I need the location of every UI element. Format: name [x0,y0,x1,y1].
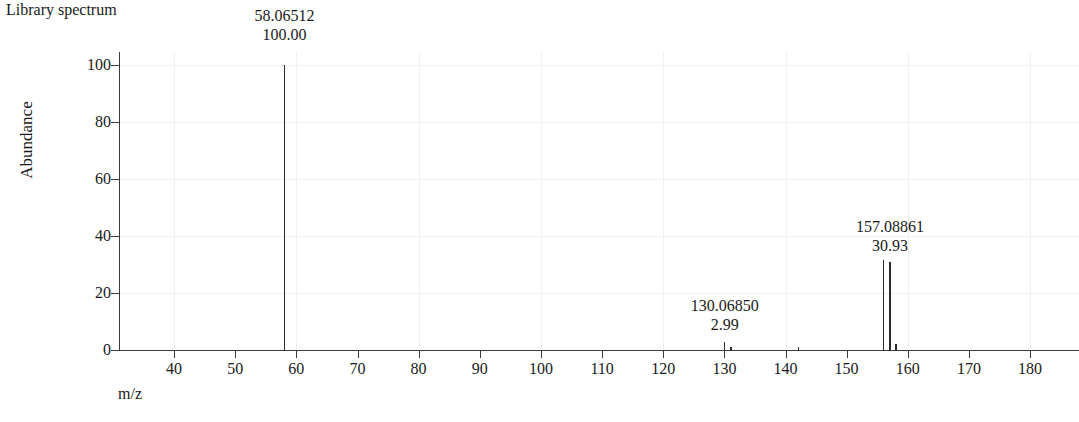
x-axis-tick-label: 130 [694,360,754,378]
x-axis-tick [358,351,359,358]
y-axis-tick-label: 100 [35,57,111,73]
x-axis-tick [480,351,481,358]
peak-mz-label: 130.06850 [645,296,805,315]
x-axis-tick [724,351,725,358]
x-axis-tick [541,351,542,358]
peak-annotation: 130.068502.99 [645,296,805,334]
y-axis-tick-label: 0 [35,342,111,358]
x-axis-tick-label: 180 [1000,360,1060,378]
peak-abundance-label: 2.99 [645,315,805,334]
peak-abundance-label: 30.93 [810,236,970,255]
x-axis-tick-label: 160 [878,360,938,378]
x-axis-tick [602,351,603,358]
y-axis-tick [111,236,120,237]
x-axis-tick-label: 120 [633,360,693,378]
y-axis-line [119,52,120,351]
grid-line-vertical [296,52,297,350]
peak-line [895,344,896,350]
peak-mz-label: 157.08861 [810,217,970,236]
grid-line-horizontal [120,122,1079,123]
y-axis-tick-label: 60 [35,171,111,187]
x-axis-line [119,350,1079,351]
grid-line-vertical [541,52,542,350]
peak-line [730,347,731,350]
peak-line [798,347,799,350]
x-axis-tick [419,351,420,358]
grid-line-vertical [1030,52,1031,350]
x-axis-tick-label: 100 [511,360,571,378]
x-axis-tick-label: 170 [939,360,999,378]
x-axis-label: m/z [118,385,142,403]
x-axis-tick-label: 80 [389,360,449,378]
x-axis-tick-label: 110 [572,360,632,378]
x-axis-tick-label: 70 [328,360,388,378]
peak-annotation: 157.0886130.93 [810,217,970,255]
y-axis-tick [111,65,120,66]
x-axis-tick [235,351,236,358]
x-axis-tick-label: 150 [817,360,877,378]
x-axis-tick [847,351,848,358]
x-axis-tick-label: 50 [205,360,265,378]
x-axis-tick [908,351,909,358]
x-axis-tick-label: 90 [450,360,510,378]
peak-line [883,260,884,350]
grid-line-horizontal [120,179,1079,180]
x-axis-tick [296,351,297,358]
y-axis-tick [111,122,120,123]
y-axis-label: Abundance [17,80,37,200]
grid-line-vertical [908,52,909,350]
page-title: Library spectrum [6,1,117,19]
x-axis-tick [969,351,970,358]
x-axis-tick-label: 40 [144,360,204,378]
peak-mz-label: 58.06512 [205,6,365,25]
spectrum-figure: Library spectrum Abundance m/z 020406080… [0,0,1079,422]
x-axis-tick [1030,351,1031,358]
y-axis-tick [111,350,120,351]
grid-line-vertical [419,52,420,350]
peak-line [889,262,890,350]
peak-line [284,65,285,350]
grid-line-horizontal [120,65,1079,66]
x-axis-tick-label: 140 [756,360,816,378]
y-axis-tick [111,179,120,180]
x-axis-tick [174,351,175,358]
x-axis-tick [663,351,664,358]
y-axis-tick-label: 80 [35,114,111,130]
grid-line-vertical [174,52,175,350]
x-axis-tick [786,351,787,358]
y-axis-tick [111,293,120,294]
x-axis-tick-label: 60 [266,360,326,378]
peak-abundance-label: 100.00 [205,25,365,44]
peak-annotation: 58.06512100.00 [205,6,365,44]
grid-line-horizontal [120,293,1079,294]
y-axis-tick-label: 40 [35,228,111,244]
y-axis-tick-label: 20 [35,285,111,301]
peak-line [724,342,725,351]
